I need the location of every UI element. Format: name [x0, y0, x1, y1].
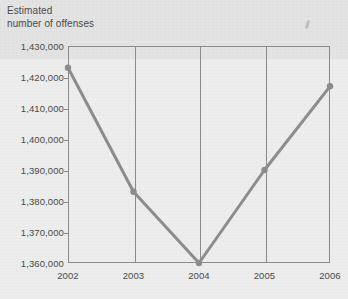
x-axis-label-2006: 2006 [308, 270, 348, 281]
data-point-2003 [130, 189, 136, 195]
data-point-2002 [65, 65, 71, 71]
data-point-2004 [196, 260, 202, 266]
x-axis-label-2005: 2005 [243, 270, 287, 281]
data-point-markers [65, 65, 333, 267]
data-point-2005 [261, 167, 267, 173]
x-axis-labels: 20022003200420052006 [0, 270, 348, 290]
offenses-line [68, 68, 330, 263]
x-axis-label-2002: 2002 [46, 270, 90, 281]
data-series-layer [0, 0, 348, 299]
data-point-2006 [327, 83, 333, 89]
x-axis-label-2003: 2003 [112, 270, 156, 281]
x-axis-label-2004: 2004 [177, 270, 221, 281]
